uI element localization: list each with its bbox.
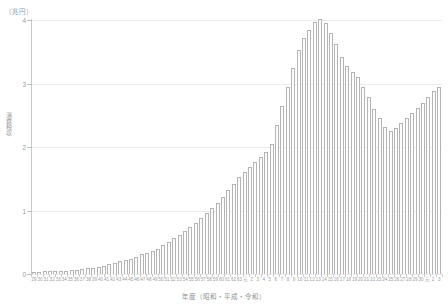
x-tick-mark <box>436 274 437 277</box>
bar <box>270 144 274 274</box>
x-tick-mark <box>43 274 44 277</box>
x-tick-mark <box>339 274 340 277</box>
x-tick-mark <box>418 274 419 277</box>
bar <box>351 72 355 274</box>
x-tick-mark <box>218 274 219 277</box>
bar <box>421 103 425 274</box>
bar <box>361 87 365 274</box>
bar <box>188 227 192 274</box>
bar <box>297 50 301 274</box>
bar <box>226 190 230 274</box>
bar <box>205 213 209 274</box>
bar <box>210 208 214 274</box>
x-tick-mark <box>430 274 431 277</box>
x-tick-mark <box>394 274 395 277</box>
bar <box>216 203 220 274</box>
bar <box>140 254 144 274</box>
bar <box>167 242 171 274</box>
bar <box>107 264 111 274</box>
x-tick-mark <box>230 274 231 277</box>
x-tick-mark <box>315 274 316 277</box>
x-tick-mark <box>170 274 171 277</box>
x-tick-mark <box>309 274 310 277</box>
bar <box>118 261 122 274</box>
bar <box>329 33 333 274</box>
bar <box>172 238 176 274</box>
x-tick-mark <box>412 274 413 277</box>
y-tick-mark <box>27 211 32 212</box>
bar-series <box>31 20 442 274</box>
x-tick-mark <box>152 274 153 277</box>
y-axis-tick-labels: 01234 <box>8 0 26 306</box>
bar <box>253 162 257 274</box>
bar <box>367 97 371 274</box>
x-tick-mark <box>194 274 195 277</box>
bar <box>102 266 106 274</box>
bar <box>416 108 420 274</box>
bar <box>183 231 187 274</box>
bar <box>156 249 160 274</box>
bar <box>286 87 290 274</box>
x-tick-mark <box>200 274 201 277</box>
y-tick-label: 3 <box>22 80 26 87</box>
x-tick-mark <box>237 274 238 277</box>
x-axis-title: 年度（昭和・平成・令和） <box>0 291 448 301</box>
bar <box>243 172 247 274</box>
bar <box>259 157 263 274</box>
bar <box>124 260 128 274</box>
y-tick-mark <box>27 84 32 85</box>
x-tick-mark <box>188 274 189 277</box>
x-tick-mark <box>388 274 389 277</box>
bar <box>307 30 311 274</box>
bar <box>113 263 117 274</box>
x-tick-mark <box>61 274 62 277</box>
bar <box>280 106 284 274</box>
bar <box>405 118 409 274</box>
x-tick-mark <box>164 274 165 277</box>
x-tick-mark <box>303 274 304 277</box>
x-tick-mark <box>285 274 286 277</box>
bar <box>426 97 430 274</box>
x-tick-mark <box>91 274 92 277</box>
y-tick-label: 2 <box>22 144 26 151</box>
tax-revenue-bar-chart: （兆円） 消費税収 01234 293031323334353637383940… <box>0 0 448 306</box>
bar <box>410 113 414 274</box>
x-tick-mark <box>382 274 383 277</box>
x-tick-mark <box>104 274 105 277</box>
x-tick-mark <box>110 274 111 277</box>
x-tick-mark <box>363 274 364 277</box>
bar <box>199 218 203 274</box>
bar <box>232 184 236 274</box>
bar <box>340 57 344 274</box>
x-tick-mark <box>442 274 443 277</box>
x-tick-mark <box>140 274 141 277</box>
x-tick-mark <box>31 274 32 277</box>
bar <box>345 66 349 274</box>
x-tick-mark <box>267 274 268 277</box>
bar <box>275 125 279 274</box>
x-tick-mark <box>73 274 74 277</box>
x-tick-mark <box>243 274 244 277</box>
x-tick-mark <box>206 274 207 277</box>
x-tick-mark <box>224 274 225 277</box>
x-tick-mark <box>128 274 129 277</box>
x-tick-mark <box>400 274 401 277</box>
x-tick-mark <box>249 274 250 277</box>
plot-area <box>31 20 442 274</box>
bar <box>264 152 268 274</box>
x-tick-mark <box>327 274 328 277</box>
x-tick-mark <box>321 274 322 277</box>
x-tick-mark <box>67 274 68 277</box>
bar <box>437 87 441 274</box>
bar <box>237 177 241 274</box>
x-tick-mark <box>158 274 159 277</box>
x-tick-mark <box>351 274 352 277</box>
bar <box>75 270 79 274</box>
bar <box>302 38 306 274</box>
bar <box>178 235 182 274</box>
y-tick-label: 1 <box>22 207 26 214</box>
x-tick-mark <box>297 274 298 277</box>
bar <box>161 245 165 274</box>
bar <box>145 253 149 274</box>
bar <box>356 77 360 274</box>
